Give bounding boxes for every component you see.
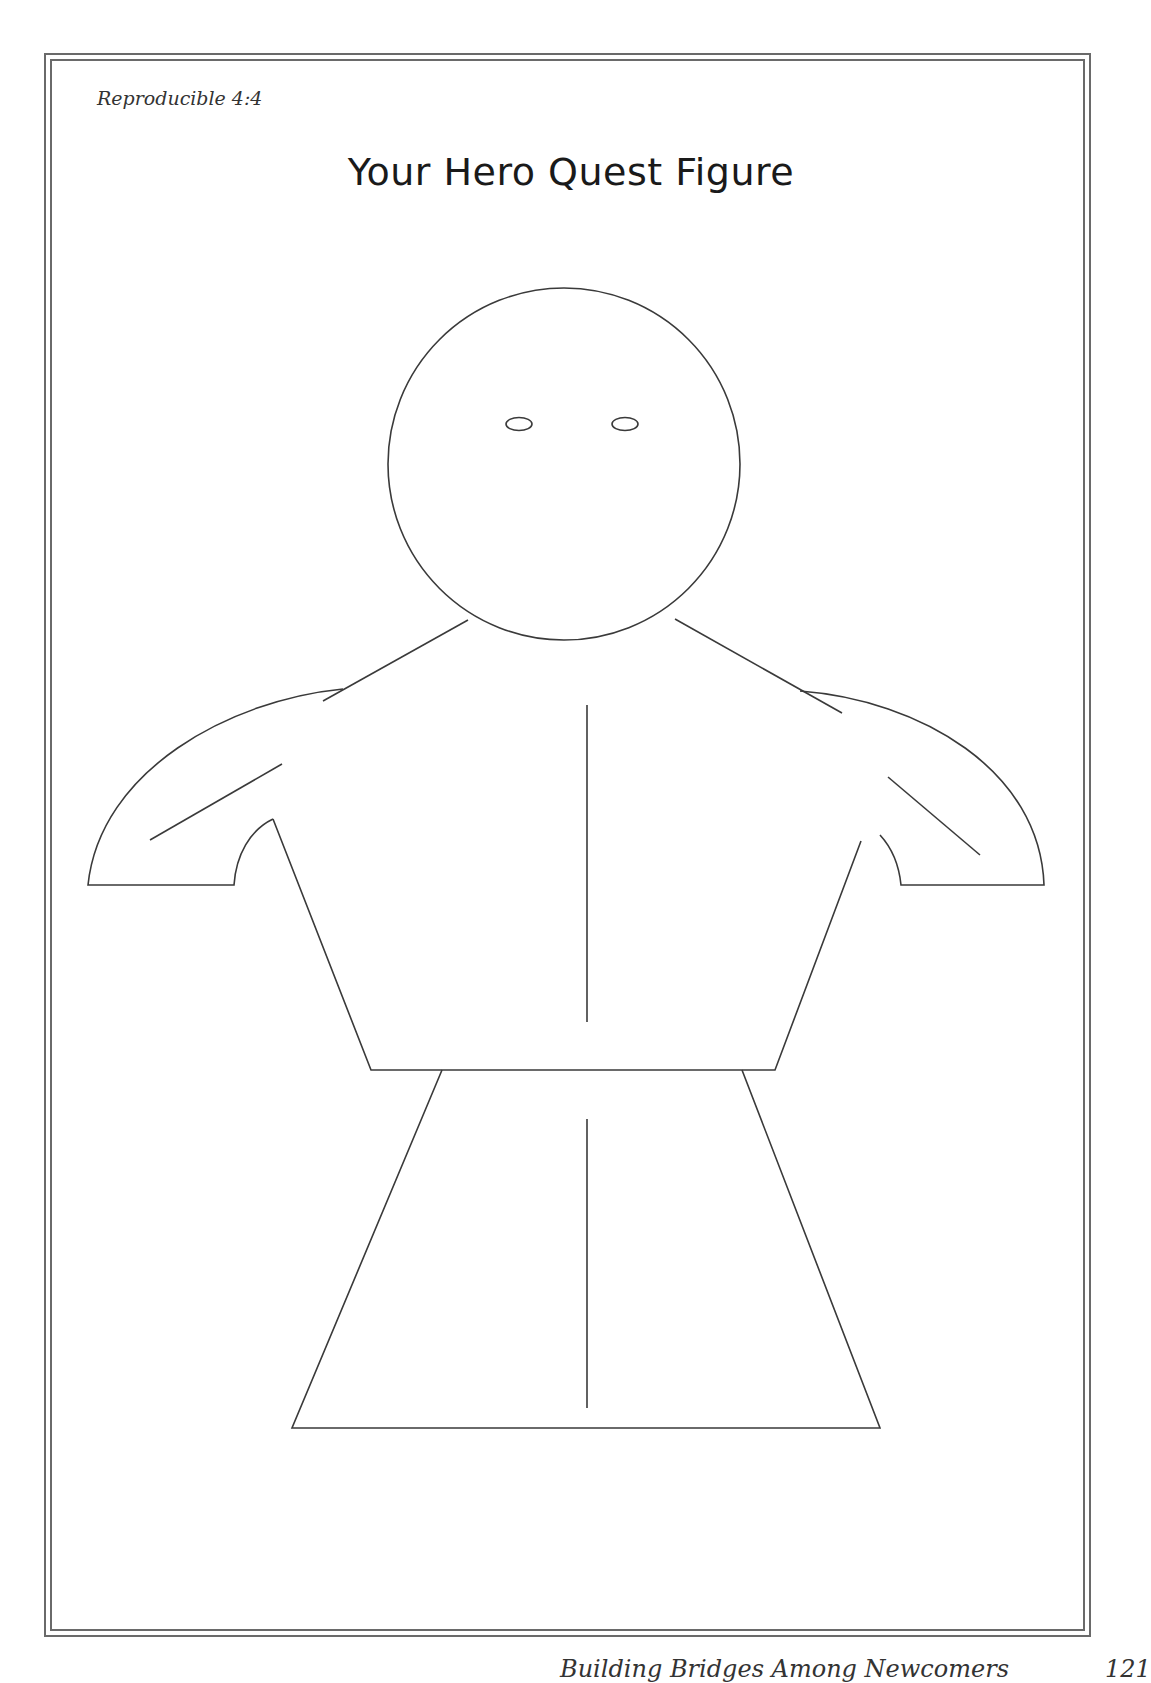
head-outline [388, 288, 740, 640]
right-arm-outline [800, 691, 1044, 885]
footer-book-title: Building Bridges Among Newcomers [560, 1655, 1009, 1683]
right-neck-line [675, 619, 842, 713]
torso-outline [273, 819, 861, 1070]
right-arm-inner-line [888, 777, 980, 855]
footer-page-number: 121 [1105, 1655, 1151, 1683]
left-neck-line [323, 620, 468, 701]
right-eye [612, 418, 638, 431]
left-eye [506, 418, 532, 431]
left-arm-inner-line [150, 764, 282, 840]
skirt-outline [292, 1070, 880, 1428]
left-arm-outline [88, 689, 343, 885]
